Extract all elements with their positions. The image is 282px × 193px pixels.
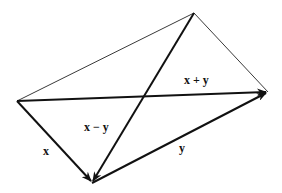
vector-x-arrow (17, 101, 91, 181)
label-diff: x − y (84, 120, 109, 134)
label-sum: x + y (184, 73, 209, 87)
label-y: y (179, 141, 185, 155)
label-x: x (43, 144, 49, 158)
vector-parallelogram-diagram: x y x + y x − y (0, 0, 282, 193)
